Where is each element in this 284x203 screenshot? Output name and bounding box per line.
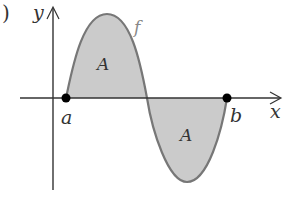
part-label: ) bbox=[2, 1, 10, 25]
region-label-lower: A bbox=[178, 125, 192, 145]
region-label-upper: A bbox=[95, 54, 109, 74]
y-axis-label: y bbox=[32, 1, 44, 23]
point-b-label: b bbox=[230, 104, 242, 126]
point-a-label: a bbox=[61, 106, 72, 128]
function-label-f: f bbox=[132, 17, 143, 37]
point-a bbox=[62, 94, 71, 103]
area-diagram: ) y x f A A a b bbox=[0, 0, 284, 203]
x-axis-label: x bbox=[270, 100, 281, 122]
point-b bbox=[223, 94, 232, 103]
